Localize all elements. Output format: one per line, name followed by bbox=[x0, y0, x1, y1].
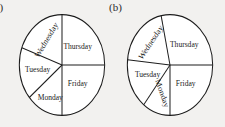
pie-a-slice-label-monday: Monday bbox=[38, 92, 64, 102]
pie-b-slice-label-thursday: Thursday bbox=[170, 39, 199, 49]
pie-chart-a: ThursdayFridayMondayTuesdayWednesday bbox=[18, 13, 106, 117]
pie-a-slice-label-thursday: Thursday bbox=[63, 41, 92, 51]
pie-b-slice-label-tuesday: Tuesday bbox=[135, 69, 161, 79]
panel-label-b: (b) bbox=[109, 1, 122, 13]
pie-a-slice-label-friday: Friday bbox=[68, 78, 89, 88]
figure-canvas: (a) (b) ThursdayFridayMondayTuesdayWedne… bbox=[0, 0, 225, 127]
panel-label-a: (a) bbox=[0, 1, 3, 13]
pie-chart-b: ThursdayFridayMondayTuesdayWednesday bbox=[126, 13, 214, 117]
pie-a-svg: ThursdayFridayMondayTuesdayWednesday bbox=[18, 13, 106, 117]
pie-a-slice-label-tuesday: Tuesday bbox=[25, 65, 51, 75]
pie-b-slice-label-friday: Friday bbox=[176, 78, 197, 88]
pie-b-svg: ThursdayFridayMondayTuesdayWednesday bbox=[126, 13, 214, 117]
